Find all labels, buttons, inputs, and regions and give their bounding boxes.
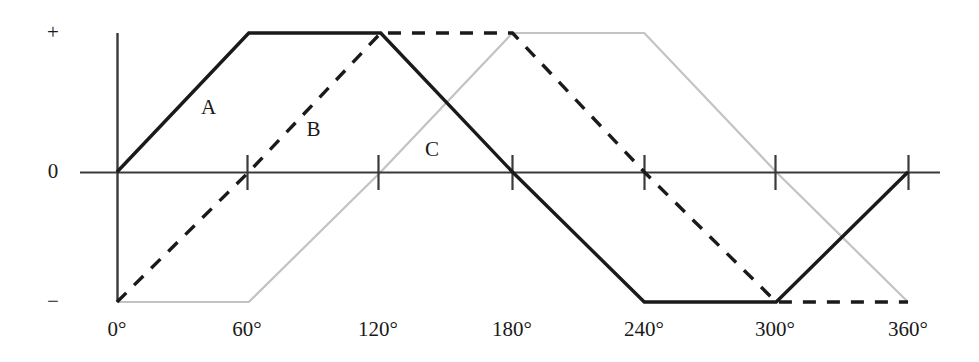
x-axis-label-300: 300° bbox=[730, 318, 820, 340]
curve-label-c: C bbox=[425, 139, 455, 160]
x-axis-label-60: 60° bbox=[202, 318, 292, 340]
curve-label-a: A bbox=[201, 97, 231, 118]
plot-area bbox=[0, 0, 979, 362]
y-axis-label-plus: + bbox=[33, 22, 73, 43]
x-axis-label-0: 0° bbox=[72, 318, 162, 340]
x-axis-label-180: 180° bbox=[467, 318, 557, 340]
x-axis-label-360: 360° bbox=[863, 318, 953, 340]
curve-label-b: B bbox=[306, 119, 336, 140]
x-axis-label-240: 240° bbox=[599, 318, 689, 340]
x-axis-label-120: 120° bbox=[333, 318, 423, 340]
y-axis-label-minus: − bbox=[33, 291, 73, 312]
waveform-chart: + 0 − 0° 60° 120° 180° 240° 300° 360° A … bbox=[0, 0, 979, 362]
y-axis-label-zero: 0 bbox=[33, 161, 73, 182]
